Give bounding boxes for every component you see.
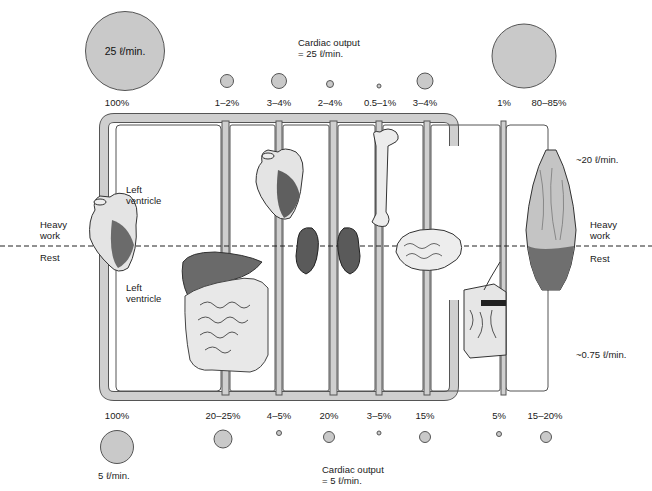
- muscle-illustration: [526, 150, 576, 290]
- rest-total-label: 5 ℓ/min.: [98, 470, 130, 481]
- heavy-work-pct-brain: 3–4%: [413, 97, 437, 108]
- left-ventricle-bottom-label: Left ventricle: [126, 282, 161, 304]
- rest-pct-muscle: 15–20%: [528, 410, 563, 421]
- heavy-work-cardiac-output-label: Cardiac output = 25 ℓ/min.: [298, 37, 360, 59]
- rest-pct-bone: 3–5%: [367, 410, 391, 421]
- rest-label-left: Rest: [40, 252, 60, 263]
- heavy-work-label-right: Heavy work: [590, 219, 617, 241]
- heavy-work-total-circle: 25 ℓ/min.: [85, 11, 165, 91]
- muscle-flow-heavy-label: ~20 ℓ/min.: [576, 154, 618, 165]
- rest-kidney-circle: [323, 431, 335, 443]
- rest-pct-skin: 5%: [492, 410, 506, 421]
- left-ventricle-top-label: Left ventricle: [126, 184, 161, 206]
- heavy-work-liver-circle: [271, 73, 287, 89]
- rest-total-circle: [100, 430, 134, 464]
- heavy-work-pct-skin: 1%: [497, 97, 511, 108]
- rest-pct-kidney: 20%: [319, 410, 338, 421]
- heavy-work-total-percent: 100%: [105, 97, 129, 108]
- rest-cardiac-output-label: Cardiac output = 5 ℓ/min.: [322, 464, 384, 486]
- brain-illustration: [396, 229, 462, 270]
- rest-liver-circle: [214, 430, 233, 449]
- heavy-work-pct-heart: 1–2%: [215, 97, 239, 108]
- femur-illustration: [372, 129, 398, 227]
- heavy-work-pct-muscle: 80–85%: [532, 97, 567, 108]
- rest-pct-brain: 15%: [415, 410, 434, 421]
- heavy-work-total-label: 25 ℓ/min.: [86, 45, 164, 57]
- heavy-work-pct-bone: 0.5–1%: [364, 97, 396, 108]
- muscle-flow-rest-label: ~0.75 ℓ/min.: [576, 349, 626, 360]
- heavy-work-bone-circle: [377, 84, 382, 89]
- rest-pct-liver: 20–25%: [206, 410, 241, 421]
- heavy-work-brain-circle: [417, 73, 434, 90]
- heavy-work-label-left: Heavy work: [40, 219, 67, 241]
- rest-brain-circle: [419, 431, 431, 443]
- rest-muscle-circle: [540, 431, 552, 443]
- heavy-work-pct-liver: 3–4%: [267, 97, 291, 108]
- rest-heart-circle: [276, 430, 282, 436]
- liver-intestines-illustration: [182, 252, 268, 372]
- rest-total-percent: 100%: [105, 410, 129, 421]
- heavy-work-kidney-circle: [326, 80, 334, 88]
- heavy-work-muscle-circle: [492, 24, 557, 89]
- rest-bone-circle: [377, 431, 382, 436]
- coronary-heart-illustration: [256, 149, 303, 219]
- rest-label-right: Rest: [590, 253, 610, 264]
- kidneys-illustration: [296, 228, 360, 274]
- rest-pct-heart: 4–5%: [267, 410, 291, 421]
- rest-skin-circle: [496, 431, 502, 437]
- heavy-work-pct-kidney: 2–4%: [318, 97, 342, 108]
- heavy-work-heart-circle: [220, 74, 234, 88]
